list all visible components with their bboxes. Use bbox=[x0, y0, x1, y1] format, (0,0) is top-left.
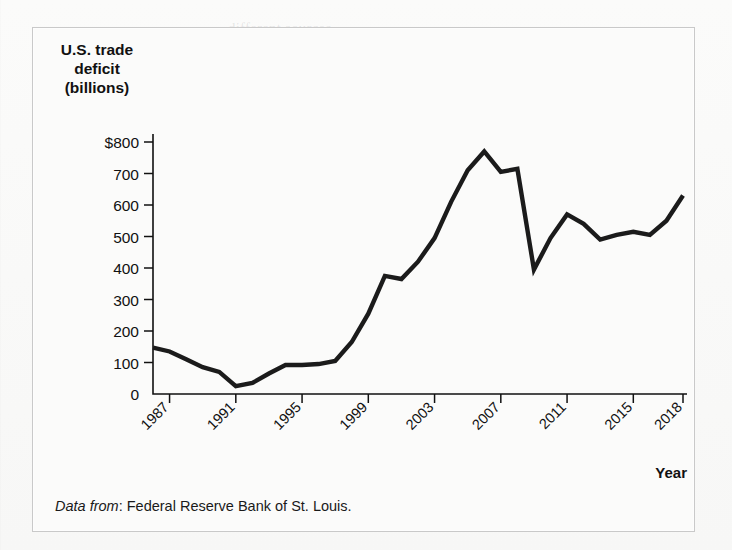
source-note: Data from: Federal Reserve Bank of St. L… bbox=[55, 498, 352, 514]
x-tick-label: 1991 bbox=[204, 399, 238, 433]
data-series-line bbox=[153, 151, 683, 386]
y-tick-label: 400 bbox=[113, 260, 139, 277]
y-tick-label: 700 bbox=[113, 166, 139, 183]
y-tick-label: 200 bbox=[113, 323, 139, 340]
x-axis-name: Year bbox=[655, 464, 687, 481]
y-tick-label: 500 bbox=[113, 229, 139, 246]
y-tick-label: 0 bbox=[130, 386, 139, 403]
y-tick-label: 300 bbox=[113, 292, 139, 309]
plot-area: 0100200300400500600700$80019871991199519… bbox=[33, 28, 696, 533]
figure-container: U.S. trade deficit (billions) 0100200300… bbox=[32, 27, 695, 532]
screenshot-page: different sourcesconsiderable changecomp… bbox=[0, 0, 732, 550]
source-text: : Federal Reserve Bank of St. Louis. bbox=[119, 498, 352, 514]
chart-axes bbox=[153, 134, 687, 394]
x-tick-label: 1995 bbox=[270, 399, 304, 433]
x-tick-label: 2015 bbox=[601, 399, 635, 433]
y-tick-label: 600 bbox=[113, 197, 139, 214]
x-tick-label: 2018 bbox=[651, 399, 685, 433]
line-chart: 0100200300400500600700$80019871991199519… bbox=[33, 28, 696, 533]
x-tick-label: 2007 bbox=[469, 399, 503, 433]
x-tick-label: 2003 bbox=[403, 399, 437, 433]
y-tick-label: $800 bbox=[105, 134, 140, 151]
y-tick-label: 100 bbox=[113, 355, 139, 372]
x-tick-label: 2011 bbox=[536, 399, 569, 432]
source-lead: Data from bbox=[55, 498, 119, 514]
x-tick-label: 1999 bbox=[336, 399, 370, 433]
x-tick-label: 1987 bbox=[138, 399, 172, 433]
